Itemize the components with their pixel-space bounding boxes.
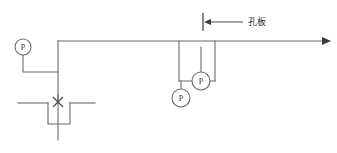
piping-schematic: 孔板 P P P — [0, 0, 337, 153]
orifice-plate-leader-arrow-icon — [204, 19, 211, 25]
pressure-gauge-middle-label: P — [199, 77, 204, 86]
left-gauge-branch-line — [23, 55, 58, 72]
trap-loop-pipe — [48, 103, 70, 124]
pressure-gauge-left-label: P — [21, 43, 26, 52]
pressure-gauge-middle: P — [192, 72, 210, 90]
pressure-gauge-left: P — [15, 39, 31, 55]
pressure-gauge-lower-label: P — [179, 94, 184, 103]
flow-direction-arrow — [322, 37, 331, 45]
pressure-gauge-lower: P — [172, 89, 190, 107]
pid-diagram-canvas: 孔板 P P P — [0, 0, 337, 153]
orifice-plate-label: 孔板 — [248, 16, 266, 27]
